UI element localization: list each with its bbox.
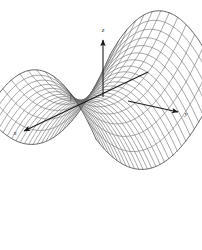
x-axis-label: x <box>12 129 17 137</box>
y-axis-label: y <box>183 110 188 118</box>
axes-overlay: z y x <box>0 0 202 250</box>
z-axis-label: z <box>101 26 105 34</box>
figure-canvas: z y x <box>0 0 202 250</box>
y-axis <box>128 101 178 112</box>
